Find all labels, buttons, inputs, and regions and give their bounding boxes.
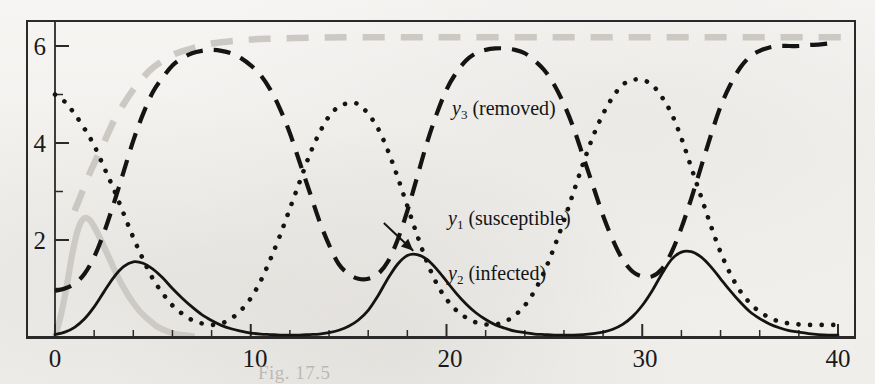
x-axis-ticks	[55, 324, 838, 337]
series-label-y3-symbol: y	[452, 97, 461, 119]
series-label-y1-symbol: y	[448, 207, 457, 229]
series-curve-solid	[55, 251, 838, 335]
x-tick-label-0: 0	[49, 346, 62, 371]
series-label-y2-subscript: 2	[457, 272, 464, 287]
y-tick-label-6: 6	[18, 34, 46, 59]
x-tick-label-10: 10	[243, 346, 268, 371]
y-axis-ticks	[55, 46, 69, 289]
series-curve-dashed	[55, 42, 838, 291]
series-label-y3-subscript: 3	[461, 107, 468, 122]
y-tick-label-4: 4	[18, 131, 46, 156]
y-tick-label-2: 2	[18, 228, 46, 253]
x-tick-label-40: 40	[826, 346, 851, 371]
chart-plot	[0, 0, 875, 384]
series-label-y2-symbol: y	[448, 262, 457, 284]
series-label-y1-text: (susceptible)	[463, 207, 570, 229]
series-label-y2-text: (infected)	[463, 262, 546, 284]
series-label-y1: y1 (susceptible)	[448, 208, 571, 228]
ghost-curve	[55, 218, 192, 337]
series-label-y2: y2 (infected)	[448, 263, 546, 283]
x-tick-label-20: 20	[438, 346, 463, 371]
series-label-y1-subscript: 1	[457, 217, 464, 232]
series-label-y3-text: (removed)	[467, 97, 555, 119]
figure-page: 0 10 20 30 40 2 4 6 y3 (removed) y1 (sus…	[0, 0, 875, 384]
series-label-y3: y3 (removed)	[452, 98, 556, 118]
data-series-layer	[55, 42, 838, 335]
annotation-layer	[384, 223, 413, 251]
x-tick-label-30: 30	[633, 346, 658, 371]
